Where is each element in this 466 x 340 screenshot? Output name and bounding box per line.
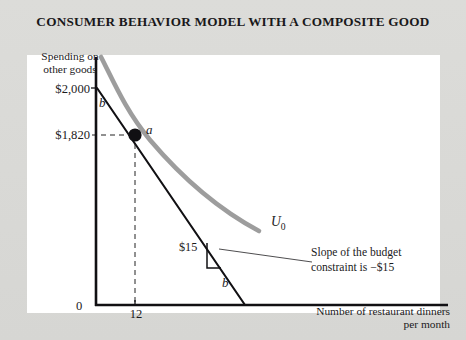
slope-triangle bbox=[207, 243, 221, 268]
y-axis-label: Spending onother goods bbox=[24, 50, 116, 76]
x-axis-label: Number of restaurant dinnersper month bbox=[298, 305, 450, 331]
y-tick-label-1820: $1,820 bbox=[26, 128, 90, 142]
budget-line-label-lower: b bbox=[222, 276, 229, 291]
u0-subscript: 0 bbox=[281, 221, 286, 232]
u0-base: U bbox=[271, 214, 281, 229]
figure-container: CONSUMER BEHAVIOR MODEL WITH A COMPOSITE… bbox=[0, 0, 466, 340]
x-axis-label-line1: Number of restaurant dinners bbox=[316, 305, 450, 317]
rise-label-15: $15 bbox=[179, 240, 197, 254]
x-axis-label-line2: per month bbox=[403, 318, 450, 330]
indifference-curve-u0 bbox=[101, 57, 259, 231]
y-tick-label-2000: $2,000 bbox=[30, 82, 90, 96]
y-axis-label-line2: other goods bbox=[43, 63, 96, 75]
budget-line-label-upper: b bbox=[99, 96, 106, 111]
budget-constraint-line bbox=[97, 88, 245, 305]
slope-note-leader-line bbox=[219, 249, 312, 262]
optimum-point-label-a: a bbox=[146, 123, 153, 138]
indifference-curve-label-u0: U0 bbox=[271, 214, 286, 232]
slope-annotation: Slope of the budgetconstraint is −$15 bbox=[311, 246, 453, 276]
y-axis-label-line1: Spending on bbox=[41, 50, 98, 62]
optimum-point-a bbox=[128, 128, 141, 141]
origin-label: 0 bbox=[76, 299, 82, 313]
x-tick-label-12: 12 bbox=[123, 307, 149, 321]
slope-note-line2: constraint is −$15 bbox=[311, 261, 394, 274]
slope-note-line1: Slope of the budget bbox=[311, 246, 401, 259]
